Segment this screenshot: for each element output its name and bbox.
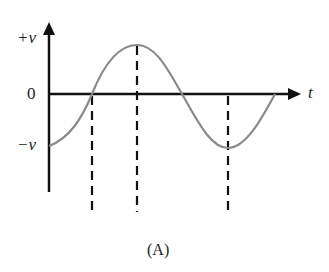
wave-curve xyxy=(49,45,275,148)
y-axis-arrow-icon xyxy=(43,22,55,35)
label-minus-v: −v xyxy=(17,135,36,155)
label-t: t xyxy=(308,83,313,103)
label-plus-v: +v xyxy=(17,28,36,48)
label-zero: 0 xyxy=(27,84,36,104)
wave-diagram xyxy=(0,0,329,272)
x-axis-arrow-icon xyxy=(288,88,301,100)
caption: (A) xyxy=(147,241,169,259)
